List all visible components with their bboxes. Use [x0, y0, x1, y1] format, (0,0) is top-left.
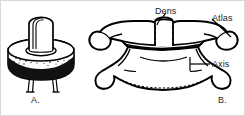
axis-vertebra-outline	[95, 47, 230, 90]
dens-process	[155, 18, 173, 47]
panel-b-caption: B.	[218, 95, 227, 105]
panel-a-caption: A.	[31, 95, 40, 105]
label-atlas: Atlas	[212, 13, 233, 23]
label-axis: Axis	[212, 59, 229, 69]
panel-a-drawing	[0, 0, 82, 116]
label-dens: Dens	[155, 6, 176, 16]
figure-root: A.	[0, 0, 245, 116]
panel-a: A.	[0, 0, 82, 116]
